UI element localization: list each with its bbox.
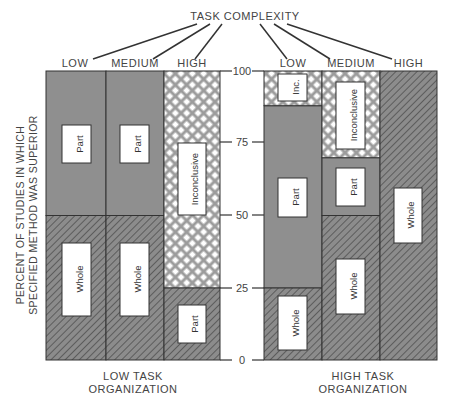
group-label-left: LOW TASK ORGANIZATION: [70, 370, 196, 396]
segment-label: Part: [74, 135, 85, 153]
segment-label: Whole: [405, 202, 416, 229]
svg-text:PERCENT OF STUDIES IN WHICH: PERCENT OF STUDIES IN WHICH: [14, 126, 26, 305]
svg-text:50: 50: [236, 209, 248, 221]
segment-label: Whole: [348, 273, 359, 300]
svg-text:0: 0: [239, 354, 245, 366]
svg-text:SPECIFIED METHOD WAS SUPERIOR: SPECIFIED METHOD WAS SUPERIOR: [27, 115, 39, 315]
segment-labels: Part Part Whole Whole Inconclusive Part …: [0, 0, 451, 404]
segment-label: Part: [189, 315, 200, 333]
segment-label: Inconclusive: [189, 153, 200, 205]
svg-text:25: 25: [236, 282, 248, 294]
segment-label: Inconclusive: [348, 89, 359, 141]
segment-label: Whole: [74, 266, 85, 293]
segment-label: Inc.: [290, 79, 301, 94]
svg-text:100: 100: [233, 65, 251, 77]
y-tick-labels: 100 75 50 25 0: [233, 65, 251, 366]
segment-label: Part: [290, 188, 301, 206]
segment-label: Whole: [290, 310, 301, 337]
segment-label: Part: [132, 135, 143, 153]
segment-label: Whole: [132, 266, 143, 293]
svg-text:75: 75: [236, 136, 248, 148]
y-axis-label: PERCENT OF STUDIES IN WHICH SPECIFIED ME…: [14, 115, 39, 315]
group-label-right: HIGH TASK ORGANIZATION: [300, 370, 426, 396]
segment-label: Part: [348, 178, 359, 196]
